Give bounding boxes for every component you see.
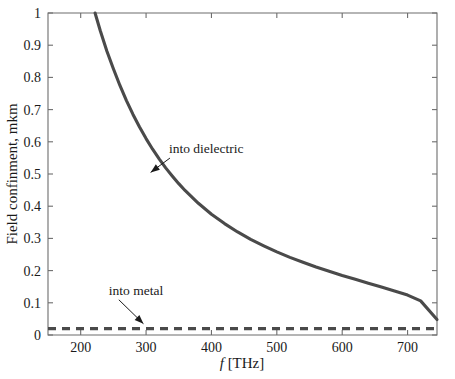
x-axis-title-unit: [THz] (228, 355, 265, 371)
x-axis-tick-labels: 200300400500600700 (70, 340, 418, 355)
y-tick-label: 0.3 (24, 231, 42, 246)
y-tick-label: 0.9 (24, 38, 42, 53)
x-tick-label: 700 (397, 340, 418, 355)
x-axis-title: f [THz] (220, 355, 265, 371)
y-tick-label: 0.4 (24, 199, 42, 214)
annotation-into-metal: into metal (109, 283, 164, 324)
annotation-into-dielectric-label: into dielectric (169, 141, 244, 156)
series-into-dielectric (95, 13, 437, 320)
annotation-into-metal-label: into metal (109, 283, 164, 298)
y-tick-label: 0.1 (24, 296, 42, 311)
x-tick-label: 200 (70, 340, 91, 355)
data-series-layer (48, 13, 437, 329)
y-axis-title: Field confinment, mkm (4, 103, 20, 245)
x-tick-label: 400 (201, 340, 222, 355)
x-tick-label: 300 (136, 340, 157, 355)
chart-figure: 200300400500600700 00.10.20.30.40.50.60.… (0, 0, 455, 379)
plot-svg: 200300400500600700 00.10.20.30.40.50.60.… (0, 0, 455, 379)
x-tick-label: 600 (332, 340, 353, 355)
y-axis-tick-labels: 00.10.20.30.40.50.60.70.80.91 (24, 6, 42, 343)
annotation-layer: into dielectric into metal (109, 141, 244, 324)
y-tick-label: 0.8 (24, 70, 42, 85)
y-tick-label: 0.2 (24, 264, 42, 279)
y-tick-label: 0.6 (24, 135, 42, 150)
y-tick-label: 1 (34, 6, 41, 21)
y-tick-label: 0 (34, 328, 41, 343)
x-tick-label: 500 (266, 340, 287, 355)
y-tick-label: 0.7 (24, 103, 42, 118)
annotation-into-dielectric-arrowhead (151, 164, 160, 172)
y-tick-label: 0.5 (24, 167, 42, 182)
